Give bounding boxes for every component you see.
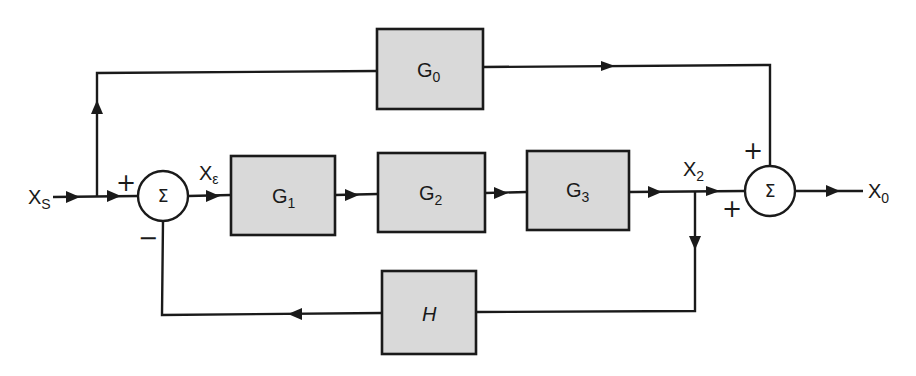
arrow-branch-up (91, 100, 103, 114)
wire-g3-to-sum2 (629, 191, 745, 192)
block-h: H (382, 271, 476, 354)
sum1-plus-sign: + (116, 169, 136, 197)
sum2-plus-sign-top: + (743, 137, 763, 165)
sum1-minus-sign: − (138, 224, 158, 252)
block-g1-subscript: 1 (288, 195, 296, 211)
arrow-feedback-left (288, 308, 302, 320)
block-g1: G1 (231, 156, 335, 235)
block-g0: G0 (377, 29, 483, 109)
arrow-input-right (66, 191, 80, 203)
sum2-plus-sign-bottom: + (722, 195, 742, 223)
signal-xe-label: X (199, 162, 212, 184)
block-g3: G3 (527, 151, 629, 230)
signal-x2-label: X (683, 158, 696, 180)
signal-xo-subscript: 0 (881, 190, 889, 206)
signal-xe: Xε (199, 162, 219, 187)
block-g2-subscript: 2 (435, 192, 443, 208)
block-g0-label: G (417, 59, 433, 81)
arrow-xe-right (206, 190, 220, 202)
block-g3-label: G (566, 179, 582, 201)
signal-xs: XS (28, 186, 51, 212)
block-g3-subscript: 3 (582, 189, 590, 205)
summing-junction-1: Σ + − (116, 169, 188, 252)
signal-xs-label: X (28, 186, 41, 208)
block-g2-label: G (419, 182, 435, 204)
arrow-g2-g3-right (494, 187, 508, 199)
arrow-output-right (826, 185, 840, 197)
signal-x2: X2 (683, 158, 704, 184)
signal-xs-subscript: S (41, 196, 50, 212)
arrow-g3-out-right (648, 186, 662, 198)
signal-x2-subscript: 2 (696, 168, 704, 184)
arrow-x2-right (706, 186, 720, 196)
block-g1-label: G (272, 185, 288, 207)
signal-xe-subscript: ε (212, 171, 218, 187)
sigma-symbol-2: Σ (765, 181, 776, 201)
arrow-g0-out-right (601, 61, 615, 71)
block-g2: G2 (378, 153, 485, 232)
signal-xo-label: X (868, 180, 881, 202)
block-h-label: H (422, 303, 437, 325)
block-g0-subscript: 0 (433, 69, 441, 85)
signal-xo: X0 (868, 180, 889, 206)
summing-junction-2: Σ + + (722, 137, 795, 223)
arrow-branch-down (689, 236, 701, 250)
arrow-g1-g2-right (345, 189, 359, 201)
block-diagram: G0 G1 G2 G3 H Σ + − Σ + + XS (0, 0, 916, 376)
sigma-symbol-1: Σ (158, 186, 169, 206)
